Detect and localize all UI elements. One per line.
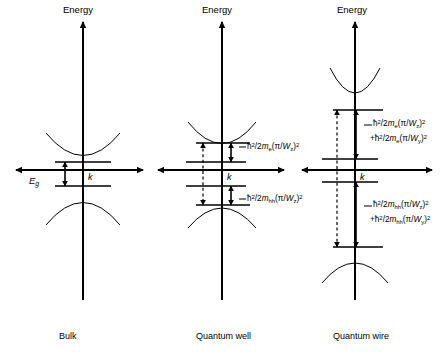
quantum-wire-k-axis-label: k (360, 173, 365, 182)
quantum-wire-caption: Quantum wire (333, 332, 389, 341)
band-structure-figure: Energy Energy Energy k k k Eg ħ2/2me(π/W… (0, 0, 446, 356)
quantum-well-k-axis-label: k (227, 173, 232, 182)
quantum-wire-energy-axis-label: Energy (337, 5, 367, 15)
qwire-hole-confinement-formula-line2: +ħ2/2mhh(π/Wy)2 (370, 215, 430, 225)
bulk-energy-axis-label: Energy (63, 5, 93, 15)
panel-quantum-well (158, 22, 284, 300)
panel-quantum-wire (302, 22, 432, 300)
qwire-hole-confinement-formula-line1: ħ2/2mhh(π/Wz)2 (373, 200, 428, 210)
panel-bulk (16, 22, 143, 300)
qw-hole-confinement-formula: ħ2/2mhh(π/Wz)2 (247, 194, 302, 204)
quantum-well-caption: Quantum well (196, 332, 251, 341)
qwire-electron-confinement-formula-line2: +ħ2/2me(π/Wy)2 (370, 134, 427, 144)
quantum-well-energy-axis-label: Energy (202, 5, 232, 15)
bulk-caption: Bulk (59, 332, 77, 341)
diagram-canvas (0, 0, 446, 356)
bulk-bandgap-label: Eg (29, 176, 39, 187)
qw-electron-confinement-formula: ħ2/2me(π/Wz)2 (247, 142, 299, 152)
bulk-k-axis-label: k (88, 173, 93, 182)
qwire-electron-confinement-formula-line1: ħ2/2me(π/Wz)2 (373, 119, 425, 129)
